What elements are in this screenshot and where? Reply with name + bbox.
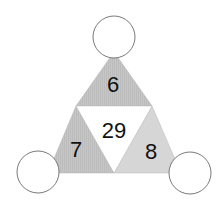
left-circle[interactable] xyxy=(17,151,59,193)
top-value: 6 xyxy=(107,72,119,97)
triangle-puzzle-diagram: 6 7 8 29 xyxy=(0,0,223,209)
top-circle[interactable] xyxy=(93,16,135,58)
right-circle[interactable] xyxy=(169,152,211,194)
center-value: 29 xyxy=(102,118,126,143)
right-value: 8 xyxy=(145,139,157,164)
left-value: 7 xyxy=(70,137,82,162)
